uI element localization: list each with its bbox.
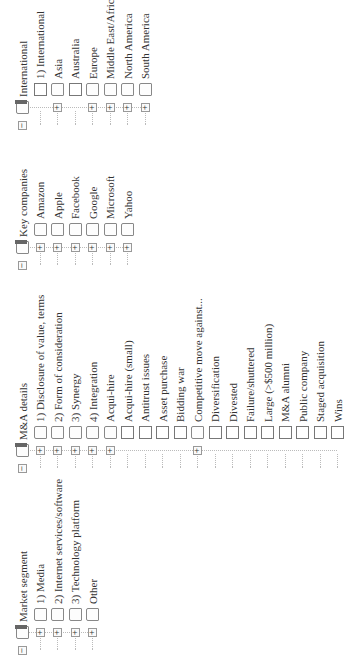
expand-icon[interactable]: + — [88, 103, 97, 112]
tree-child-node[interactable]: +2) Form of consideration — [49, 312, 66, 455]
tree-child-node[interactable]: Failure/shuttered — [242, 347, 259, 455]
tree-root-node[interactable]: −Market segment — [14, 551, 31, 655]
tree-child-node[interactable]: +Apple — [49, 192, 66, 252]
tree-child-node[interactable]: +Middle East/Africa — [102, 0, 119, 112]
tree-child-node[interactable]: +Other — [84, 579, 101, 637]
expand-icon[interactable]: + — [53, 446, 62, 455]
spacer — [316, 446, 325, 455]
tree-child-node[interactable]: +Yahoo — [119, 191, 136, 252]
collapse-icon[interactable]: − — [18, 121, 27, 130]
expand-icon[interactable]: + — [106, 243, 115, 252]
node-box-icon — [139, 426, 152, 439]
tree-child-node[interactable]: +Europe — [84, 47, 101, 112]
spacer — [211, 446, 220, 455]
folder-icon — [86, 426, 99, 439]
expand-icon[interactable]: + — [141, 103, 150, 112]
spacer — [36, 103, 45, 112]
node-label: Antitrust issues — [139, 354, 151, 422]
node-box-icon — [244, 426, 257, 439]
expand-icon[interactable]: + — [106, 103, 115, 112]
node-label: Market segment — [17, 551, 29, 622]
collapse-icon[interactable]: − — [18, 261, 27, 270]
spacer — [123, 446, 132, 455]
tree-child-node[interactable]: +Acqui-hire — [102, 374, 119, 455]
tree-connector — [57, 251, 58, 265]
tree-child-node[interactable]: Bidding war — [172, 367, 189, 455]
expand-icon[interactable]: + — [88, 446, 97, 455]
tree-root-node[interactable]: −Key companies — [14, 169, 31, 270]
node-box-icon — [296, 426, 309, 439]
tree-child-node[interactable]: +North America — [119, 13, 136, 112]
expand-icon[interactable]: + — [71, 243, 80, 252]
folder-icon — [86, 608, 99, 621]
tree-child-node[interactable]: +Microsoft — [102, 176, 119, 252]
tree-root-node[interactable]: −M&A details — [14, 383, 31, 473]
tree-child-node[interactable]: Staged acquisition — [312, 341, 329, 455]
tree-child-node[interactable]: +Google — [84, 187, 101, 252]
tree-connector — [40, 454, 41, 468]
expand-icon[interactable]: + — [88, 243, 97, 252]
tree-connector — [337, 454, 338, 468]
tree-root-node[interactable]: −International — [14, 41, 31, 130]
expand-icon[interactable]: + — [88, 628, 97, 637]
tree-child-node[interactable]: 1) International — [32, 11, 49, 112]
tree-connector — [127, 454, 128, 468]
tree-child-node[interactable]: +4) Integration — [84, 362, 101, 455]
expand-icon[interactable]: + — [123, 103, 132, 112]
tree-child-node[interactable]: +1) Disclosure of value, terms — [32, 295, 49, 455]
folder-icon — [51, 608, 64, 621]
collapse-icon[interactable]: − — [18, 646, 27, 655]
node-box-icon — [331, 426, 344, 439]
tree-child-node[interactable]: +Asia — [49, 59, 66, 112]
tree-child-node[interactable]: +South America — [137, 13, 154, 112]
tree-child-node[interactable]: Divested — [224, 383, 241, 455]
expand-icon[interactable]: + — [36, 446, 45, 455]
tree-connector — [75, 251, 76, 265]
folder-icon — [121, 223, 134, 236]
folder-icon — [34, 223, 47, 236]
tree-child-node[interactable]: +3) Synergy — [67, 374, 84, 455]
tree-child-node[interactable]: Large (>$500 million) — [259, 324, 276, 455]
tree-child-node[interactable]: +Amazon — [32, 182, 49, 252]
tree-child-node[interactable]: +Facebook — [67, 176, 84, 252]
node-label: Amazon — [34, 182, 46, 219]
tree-child-node[interactable]: Wins — [329, 399, 346, 455]
expand-icon[interactable]: + — [193, 446, 202, 455]
tree-child-node[interactable]: Public company — [294, 351, 311, 455]
node-label: Asset purchase — [157, 356, 169, 422]
tree-child-node[interactable]: +Competitive move against... — [189, 298, 206, 455]
spacer — [263, 446, 272, 455]
node-label: 2) Internet services/software — [52, 479, 64, 604]
tree-connector — [57, 636, 58, 650]
tree-connector — [57, 454, 58, 468]
node-label: Other — [87, 579, 99, 604]
expand-icon[interactable]: + — [36, 243, 45, 252]
node-label: Apple — [52, 192, 64, 219]
node-box-icon — [34, 83, 47, 96]
tree-child-node[interactable]: Asset purchase — [154, 356, 171, 455]
expand-icon[interactable]: + — [36, 628, 45, 637]
expand-icon[interactable]: + — [123, 243, 132, 252]
node-tree-panel: −Market segment+1) Media+2) Internet ser… — [0, 0, 357, 663]
expand-icon[interactable]: + — [71, 446, 80, 455]
expand-icon[interactable]: + — [53, 243, 62, 252]
node-label: Asia — [52, 59, 64, 79]
expand-icon[interactable]: + — [53, 628, 62, 637]
tree-child-node[interactable]: M&A alumni — [277, 363, 294, 455]
expand-icon[interactable]: + — [71, 628, 80, 637]
collapse-icon[interactable]: − — [18, 464, 27, 473]
expand-icon[interactable]: + — [53, 103, 62, 112]
tree-connector — [145, 454, 146, 468]
tree-child-node[interactable]: Diversification — [207, 356, 224, 455]
tree-connector — [267, 454, 268, 468]
tree-child-node[interactable]: Antitrust issues — [137, 354, 154, 455]
tree-child-node[interactable]: +3) Technology platform — [67, 500, 84, 637]
tree-connector — [162, 454, 163, 468]
tree-child-node[interactable]: Australia — [67, 39, 84, 112]
tree-child-node[interactable]: Acqui-hire (small) — [119, 340, 136, 455]
tree-child-node[interactable]: +1) Media — [32, 564, 49, 637]
folder-icon — [121, 83, 134, 96]
tree-child-node[interactable]: +2) Internet services/software — [49, 479, 66, 637]
node-box-icon — [156, 426, 169, 439]
expand-icon[interactable]: + — [106, 446, 115, 455]
